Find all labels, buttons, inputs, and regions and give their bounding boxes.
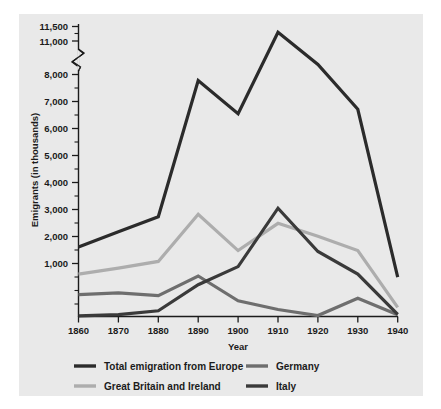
series-group (79, 32, 398, 316)
y-tick-label-8000: 8,000 (44, 69, 68, 80)
x-tick-label-1860: 1860 (68, 325, 89, 336)
y-tick-label-11500: 11,500 (39, 21, 68, 32)
chart-legend: Total emigration from Europe Germany Gre… (74, 361, 320, 392)
y-tick-label-5000: 5,000 (44, 150, 68, 161)
x-tick-label-1880: 1880 (148, 325, 169, 336)
x-axis: 1860 1870 1880 1890 1900 1910 1920 1930 … (68, 317, 408, 353)
legend-label-germany: Germany (276, 361, 320, 372)
legend-label-gbi: Great Britain and Ireland (104, 381, 221, 392)
y-tick-label-6000: 6,000 (44, 123, 68, 134)
x-tick-label-1870: 1870 (108, 325, 129, 336)
x-tick-label-1900: 1900 (228, 325, 249, 336)
y-axis: 11,500 11,000 8,000 7,000 6,000 5,000 4,… (29, 21, 84, 317)
x-axis-title: Year (228, 341, 248, 352)
y-tick-label-7000: 7,000 (44, 96, 68, 107)
x-tick-label-1910: 1910 (267, 325, 288, 336)
y-tick-label-3000: 3,000 (44, 204, 68, 215)
x-tick-label-1890: 1890 (188, 325, 209, 336)
line-chart: 11,500 11,000 8,000 7,000 6,000 5,000 4,… (0, 0, 441, 409)
x-tick-label-1940: 1940 (387, 325, 408, 336)
series-line-germany (79, 276, 398, 316)
legend-label-total: Total emigration from Europe (104, 361, 244, 372)
series-line-total-emigration-from-europe (79, 32, 398, 277)
y-axis-title: Emigrants (in thousands) (29, 113, 40, 228)
y-tick-label-4000: 4,000 (44, 177, 68, 188)
legend-label-italy: Italy (276, 381, 296, 392)
x-tick-label-1930: 1930 (347, 325, 368, 336)
chart-figure: 11,500 11,000 8,000 7,000 6,000 5,000 4,… (0, 0, 441, 409)
y-tick-label-1000: 1,000 (44, 258, 68, 269)
x-tick-label-1920: 1920 (307, 325, 328, 336)
y-tick-label-11000: 11,000 (39, 36, 68, 47)
y-tick-label-2000: 2,000 (44, 231, 68, 242)
